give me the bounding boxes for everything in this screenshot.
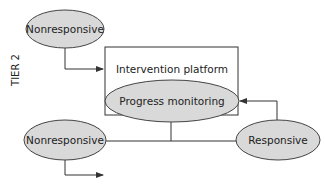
tier2-diagram: TIER 2 Intervention platform Nonresponsi… [0, 0, 325, 185]
intervention-platform-label: Intervention platform [116, 63, 228, 75]
node-nonresponsive-bottom: Nonresponsive [24, 120, 106, 160]
nonresponsive-bottom-label: Nonresponsive [26, 134, 104, 146]
arrow-nonresponsive-to-platform [65, 48, 103, 69]
responsive-label: Responsive [248, 134, 308, 146]
node-nonresponsive-top: Nonresponsive [26, 10, 104, 48]
tier-label: TIER 2 [10, 54, 21, 87]
arrow-responsive-to-progress [240, 101, 277, 120]
progress-monitoring-label: Progress monitoring [119, 95, 224, 107]
arrow-nonresponsive-to-next-tier [65, 160, 103, 175]
node-responsive: Responsive [236, 120, 320, 160]
nonresponsive-top-label: Nonresponsive [26, 23, 104, 35]
node-progress-monitoring: Progress monitoring [105, 80, 239, 122]
